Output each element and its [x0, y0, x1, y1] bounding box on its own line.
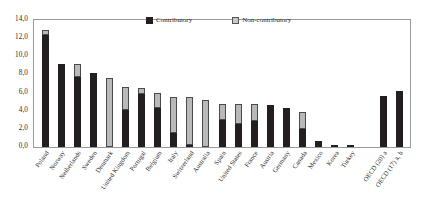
bar-slot [198, 20, 214, 147]
y-axis-tick-label: 14,0 [15, 16, 28, 23]
bar-slot [101, 20, 117, 147]
x-label-slot: Italy [166, 149, 182, 222]
bar-slot [182, 20, 198, 147]
bar-slot [166, 20, 182, 147]
bar-slot [37, 20, 53, 147]
stacked-bar [251, 104, 258, 147]
bar-segment-non-contributory [170, 97, 177, 132]
x-label-slot: United Kingdom [117, 149, 133, 222]
bar-segment-non-contributory [122, 87, 129, 110]
bar-segment-contributory [331, 145, 338, 147]
x-label-slot: United States [230, 149, 246, 222]
bar-segment-contributory [219, 120, 226, 147]
x-label-slot: Mexico [311, 149, 327, 222]
x-label-slot: Netherlands [69, 149, 85, 222]
bar-segment-contributory [283, 108, 290, 147]
x-label-slot: Switzerland [182, 149, 198, 222]
bar-segment-contributory [58, 64, 65, 147]
bar-segment-contributory [267, 105, 274, 147]
x-label-slot: Turkey [343, 149, 359, 222]
bar-segment-contributory [380, 96, 387, 147]
x-axis-labels: PolandNorwayNetherlandsSwedenDenmarkUnit… [34, 149, 410, 222]
stacked-bar [235, 104, 242, 147]
y-axis-tick-label: 0,0 [19, 143, 28, 150]
bar-slot [343, 20, 359, 147]
bar-segment-contributory [42, 35, 49, 147]
bar-slot [53, 20, 69, 147]
bar-segment-contributory [251, 121, 258, 147]
y-axis-tick-label: 4,0 [19, 107, 28, 114]
stacked-bar [74, 64, 81, 147]
stacked-bar [202, 100, 209, 147]
bar-segment-contributory [90, 73, 97, 147]
stacked-bar [315, 141, 322, 147]
bar-segment-non-contributory [235, 104, 242, 124]
bar-segment-non-contributory [219, 104, 226, 119]
stacked-bar [347, 145, 354, 147]
x-label-slot: Canada [295, 149, 311, 222]
x-label-slot: France [246, 149, 262, 222]
bar-slot [391, 20, 407, 147]
bar-segment-non-contributory [106, 78, 113, 147]
stacked-bar [154, 93, 161, 147]
x-label-slot: Spain [214, 149, 230, 222]
bar-slot [69, 20, 85, 147]
bar-slot [278, 20, 294, 147]
bar-segment-contributory [396, 91, 403, 147]
x-label-slot: Korea [327, 149, 343, 222]
x-label-slot: Portugal [134, 149, 150, 222]
stacked-bar [42, 30, 49, 147]
bar-slot [214, 20, 230, 147]
bar-slot [134, 20, 150, 147]
y-axis: 0,02,04,06,08,010,012,014,0 [0, 19, 31, 148]
stacked-bar [122, 87, 129, 147]
x-label-slot: Austria [262, 149, 278, 222]
y-axis-tick-label: 2,0 [19, 125, 28, 132]
bar-slot [246, 20, 262, 147]
stacked-bar [138, 88, 145, 147]
y-axis-tick-label: 12,0 [15, 35, 28, 42]
bar-slot [295, 20, 311, 147]
bar-series-container [34, 20, 410, 147]
bar-slot [311, 20, 327, 147]
bar-segment-non-contributory [251, 104, 258, 120]
stacked-bar [219, 104, 226, 147]
stacked-bar [186, 97, 193, 147]
bar-slot [375, 20, 391, 147]
x-axis-tick-label: Spain [213, 150, 227, 166]
bar-slot [85, 20, 101, 147]
y-axis-tick-label: 8,0 [19, 71, 28, 78]
bar-segment-contributory [315, 141, 322, 147]
x-label-slot: Norway [53, 149, 69, 222]
stacked-bar [90, 73, 97, 147]
bar-segment-non-contributory [154, 93, 161, 108]
bar-slot [327, 20, 343, 147]
bar-segment-non-contributory [202, 100, 209, 147]
stacked-bar [283, 108, 290, 147]
stacked-bar [331, 145, 338, 147]
bar-segment-contributory [299, 129, 306, 147]
bar-segment-contributory [154, 108, 161, 147]
x-label-slot: Poland [37, 149, 53, 222]
stacked-bar [170, 97, 177, 147]
stacked-bar [58, 64, 65, 147]
stacked-bar [267, 105, 274, 147]
x-axis-tick-label: Canada [291, 150, 308, 170]
stacked-bar [299, 112, 306, 147]
x-label-gap [359, 149, 375, 222]
bar-slot [230, 20, 246, 147]
bar-segment-contributory [74, 77, 81, 147]
bar-slot [262, 20, 278, 147]
x-label-slot: OECD (17) a, b [391, 149, 407, 222]
y-axis-tick-label: 10,0 [15, 53, 28, 60]
stacked-bar [396, 91, 403, 147]
stacked-bar [380, 96, 387, 147]
y-axis-tick-label: 6,0 [19, 89, 28, 96]
bar-segment-contributory [122, 110, 129, 147]
x-label-slot: Australia [198, 149, 214, 222]
x-axis-tick-label: Turkey [340, 150, 356, 169]
bar-segment-non-contributory [186, 97, 193, 145]
x-axis-tick-label: Italy [167, 150, 179, 164]
axis-group-gap [359, 20, 375, 147]
bar-segment-contributory [170, 133, 177, 148]
